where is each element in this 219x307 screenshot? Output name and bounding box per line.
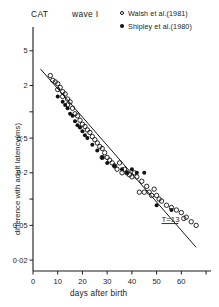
data-point-walsh: [179, 210, 183, 214]
plot-area: 520·50·20·050·020102030405060T=13: [0, 0, 219, 307]
series-walsh: [48, 73, 198, 227]
data-point-walsh: [174, 208, 178, 212]
data-point-walsh: [85, 128, 89, 132]
x-tick-label: 40: [128, 277, 136, 286]
chart-figure: CAT wave I Walsh et al.(1981) Shipley et…: [0, 0, 219, 307]
data-point-walsh: [137, 190, 141, 194]
data-point-shipley: [100, 155, 104, 159]
data-point-shipley: [169, 208, 173, 212]
data-point-walsh: [135, 175, 139, 179]
data-point-shipley: [120, 167, 124, 171]
data-point-shipley: [142, 171, 146, 175]
data-point-shipley: [130, 167, 134, 171]
data-point-shipley: [155, 203, 159, 207]
data-point-walsh: [194, 223, 198, 227]
data-point-shipley: [85, 136, 89, 140]
data-point-walsh: [152, 187, 156, 191]
x-tick-label: 60: [177, 277, 185, 286]
x-tick-label: 20: [78, 277, 86, 286]
x-tick-label: 10: [53, 277, 61, 286]
y-tick-label: 2: [23, 81, 27, 90]
data-point-shipley: [95, 149, 99, 153]
data-point-walsh: [145, 184, 149, 188]
y-tick-label: 5: [23, 46, 27, 55]
data-point-walsh: [189, 220, 193, 224]
data-point-shipley: [90, 143, 94, 147]
y-tick-label: 0·5: [17, 134, 28, 143]
y-tick-label: 0·02: [13, 256, 28, 265]
x-tick-label: 50: [152, 277, 160, 286]
data-point-shipley: [63, 103, 67, 107]
y-tick-label: 0·2: [17, 168, 28, 177]
data-point-shipley: [105, 161, 109, 165]
data-point-shipley: [125, 171, 129, 175]
data-point-walsh: [164, 203, 168, 207]
data-point-shipley: [80, 129, 84, 133]
data-point-shipley: [71, 114, 75, 118]
data-point-shipley: [135, 171, 139, 175]
data-point-walsh: [48, 73, 52, 77]
y-tick-label: 0·05: [13, 221, 28, 230]
data-point-walsh: [102, 151, 106, 155]
data-point-walsh: [140, 179, 144, 183]
chart-annotation: T=13: [162, 215, 180, 224]
data-point-shipley: [66, 106, 70, 110]
data-point-walsh: [105, 155, 109, 159]
data-point-walsh: [117, 161, 121, 165]
data-point-shipley: [56, 94, 60, 98]
x-tick-label: 30: [103, 277, 111, 286]
data-point-walsh: [142, 190, 146, 194]
data-point-walsh: [88, 130, 92, 134]
x-tick-label: 0: [31, 277, 35, 286]
data-point-shipley: [73, 119, 77, 123]
data-point-shipley: [113, 164, 117, 168]
data-point-shipley: [78, 126, 82, 130]
